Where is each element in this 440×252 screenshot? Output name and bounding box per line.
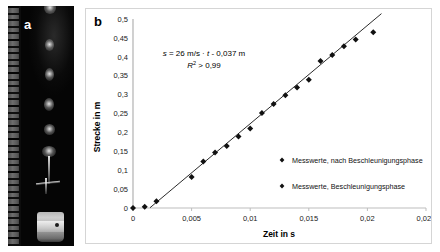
data-point: [130, 205, 136, 211]
data-point: [341, 43, 347, 49]
legend-label: Messwerte, nach Beschleunigungsphase: [292, 156, 423, 165]
projectile-blob: [45, 68, 54, 81]
x-tick-label: 0: [131, 214, 135, 223]
y-tick-label: 0,4: [118, 53, 128, 62]
y-axis-tick-labels: 00,050,10,150,20,250,30,350,40,450,5: [113, 15, 128, 213]
x-axis-title: Zeit in s: [263, 229, 295, 239]
r-squared-annotation: R2 > 0,99: [187, 60, 221, 70]
ruler-edge: [19, 6, 21, 246]
data-point: [370, 29, 376, 35]
data-point: [306, 77, 312, 83]
y-tick-label: 0,2: [118, 128, 128, 137]
y-tick-label: 0,35: [113, 71, 128, 80]
data-point: [294, 84, 300, 90]
data-point: [247, 126, 253, 132]
y-tick-label: 0,05: [113, 185, 128, 194]
y-tick-label: 0,3: [118, 90, 128, 99]
bottle-mark: [55, 223, 59, 227]
x-tick-label: 0,02: [360, 214, 375, 223]
panel-b-chart: b 00,050,10,150,20,250,30,350,40,450,5 0…: [85, 8, 432, 244]
data-point: [153, 198, 159, 204]
projectile-blob: [44, 124, 55, 135]
y-tick-label: 0: [124, 204, 128, 213]
x-tick-label: 0,01: [243, 214, 258, 223]
data-point: [200, 159, 206, 165]
figure-container: a b 00,050,10,150,20,250,30,350,40,450,5…: [0, 0, 440, 252]
projectile-blob: [45, 39, 54, 51]
ruler-scale: [8, 6, 21, 246]
panel-a-photograph: a: [8, 6, 74, 246]
y-tick-label: 0,5: [118, 15, 128, 24]
projectile-blob: [44, 98, 54, 111]
y-axis-title: Strecke in m: [92, 101, 102, 152]
legend-label: Messwerte, Beschleunigungsphase: [292, 182, 405, 191]
equation-middle: = 26 m/s ·: [167, 49, 207, 58]
chart-legend: Messwerte, nach BeschleunigungsphaseMess…: [280, 156, 423, 191]
legend-marker: [280, 158, 285, 163]
regression-line: [150, 14, 381, 208]
bottle-target: [37, 212, 64, 242]
equation-tail: - 0,037 m: [209, 49, 245, 58]
data-point: [142, 204, 148, 210]
projectile-streak: [48, 156, 50, 184]
panel-a-letter: a: [24, 18, 31, 31]
x-tick-label: 0,025: [417, 214, 431, 223]
y-tick-label: 0,15: [113, 147, 128, 156]
data-point: [282, 92, 288, 98]
y-tick-label: 0,25: [113, 109, 128, 118]
x-tick-label: 0,005: [182, 214, 201, 223]
bottle-label-band: [37, 221, 64, 232]
data-point: [224, 143, 230, 149]
y-tick-label: 0,1: [118, 166, 128, 175]
projectile-splash: [45, 178, 47, 194]
x-tick-label: 0,015: [299, 214, 318, 223]
y-tick-label: 0,45: [113, 34, 128, 43]
scatter-chart: 00,050,10,150,20,250,30,350,40,450,5 00,…: [86, 9, 431, 243]
equation-annotation: s = 26 m/s · t - 0,037 m: [163, 49, 246, 58]
r-squared-tail: > 0,99: [196, 61, 221, 70]
data-point: [235, 134, 241, 140]
x-axis-tick-labels: 00,0050,010,0150,020,025: [131, 214, 431, 223]
legend-marker: [280, 184, 285, 189]
